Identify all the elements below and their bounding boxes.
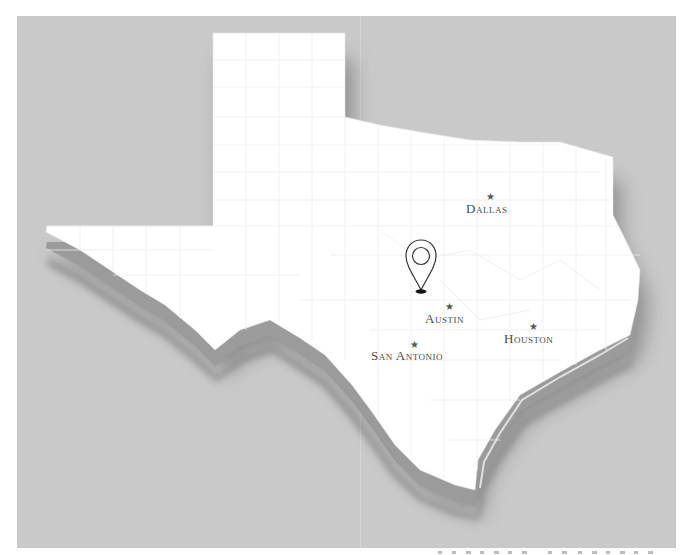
- city-label-houston: Houston: [504, 331, 553, 346]
- city-label-dallas: Dallas: [466, 201, 507, 216]
- city-label-san-antonio: San Antonio: [371, 348, 443, 363]
- texas-map: ★ Dallas ★ Austin ★ San Antonio ★ Housto…: [0, 0, 690, 555]
- city-label-austin: Austin: [425, 311, 464, 326]
- texas-land: [46, 33, 640, 490]
- cutoff-caption: [438, 551, 653, 554]
